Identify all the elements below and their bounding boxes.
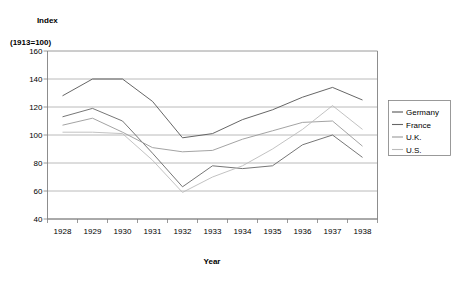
series-line-germany — [63, 79, 363, 138]
x-tick-1938: 1938 — [354, 227, 372, 236]
y-tick-160: 160 — [29, 47, 43, 56]
legend-label-france[interactable]: France — [406, 121, 431, 130]
x-tick-1933: 1933 — [204, 227, 222, 236]
line-chart: Index (1913=100) 406080100120140160 1928… — [0, 0, 454, 281]
x-tick-1936: 1936 — [294, 227, 312, 236]
series-line-us — [63, 106, 363, 193]
y-tick-140: 140 — [29, 75, 43, 84]
y-tick-60: 60 — [34, 187, 43, 196]
x-tick-1934: 1934 — [234, 227, 252, 236]
y-tick-120: 120 — [29, 103, 43, 112]
x-tick-1937: 1937 — [324, 227, 342, 236]
legend-label-germany[interactable]: Germany — [406, 108, 439, 117]
gridlines — [48, 51, 378, 219]
series-line-france — [63, 108, 363, 186]
x-tick-1928: 1928 — [54, 227, 72, 236]
y-axis-labels: 406080100120140160 — [29, 47, 43, 224]
plot-area: 406080100120140160 192819291930193119321… — [0, 0, 454, 281]
x-tick-1930: 1930 — [114, 227, 132, 236]
x-tick-1935: 1935 — [264, 227, 282, 236]
legend: GermanyFranceU.K.U.S. — [389, 101, 451, 156]
y-tick-40: 40 — [34, 215, 43, 224]
y-tick-80: 80 — [34, 159, 43, 168]
legend-label-uk[interactable]: U.K. — [406, 133, 422, 142]
data-series-group — [63, 79, 363, 192]
x-axis-labels: 1928192919301931193219331934193519361937… — [54, 227, 372, 236]
x-tick-1931: 1931 — [144, 227, 162, 236]
x-tick-1932: 1932 — [174, 227, 192, 236]
x-tick-1929: 1929 — [84, 227, 102, 236]
y-tick-100: 100 — [29, 131, 43, 140]
x-axis-title: Year — [204, 257, 221, 266]
legend-label-us[interactable]: U.S. — [406, 146, 422, 155]
